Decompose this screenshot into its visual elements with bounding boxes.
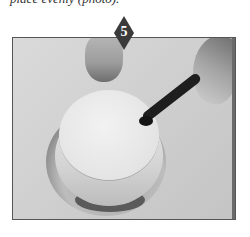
frame-shadow: [232, 38, 235, 219]
instruction-caption: place evenly (photo).: [10, 0, 250, 7]
cake-top: [59, 90, 159, 180]
step-number: 5: [114, 24, 134, 40]
step-badge: 5: [114, 16, 134, 50]
spatula-tip: [139, 116, 153, 126]
right-hand: [186, 37, 236, 108]
step-photo: [12, 37, 236, 220]
spatula: [141, 72, 202, 123]
